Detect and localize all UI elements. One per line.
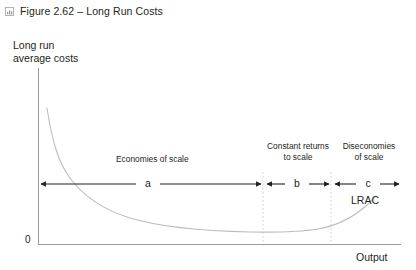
segment-label-b: b (287, 177, 307, 189)
chart-plot-area: Long run average costs Output 0 Economie… (0, 0, 416, 270)
region-label-economies-of-scale: Economies of scale (116, 154, 189, 164)
region-label-diseconomies-of-scale: Diseconomies of scale (336, 141, 402, 162)
segment-label-a: a (138, 177, 158, 189)
lrac-curve-label: LRAC (351, 194, 379, 207)
origin-label: 0 (25, 234, 31, 246)
lrac-curve (47, 108, 376, 232)
figure-container: Figure 2.62 – Long Run Costs (0, 0, 416, 270)
region-label-constant-returns-to-scale: Constant returns to scale (263, 141, 333, 162)
segment-label-c: c (358, 177, 378, 189)
x-axis-label: Output (356, 251, 388, 264)
y-axis-label: Long run average costs (13, 39, 78, 65)
